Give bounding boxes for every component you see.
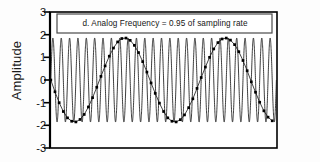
sample-marker bbox=[137, 51, 140, 54]
sample-marker bbox=[187, 106, 190, 109]
sample-marker bbox=[271, 119, 274, 122]
sample-marker bbox=[133, 44, 136, 47]
sample-marker bbox=[233, 43, 236, 46]
sample-marker bbox=[66, 117, 69, 120]
sample-marker bbox=[141, 60, 144, 63]
sample-marker bbox=[91, 96, 94, 99]
sample-marker bbox=[258, 101, 261, 104]
sample-marker bbox=[108, 55, 111, 58]
sample-marker bbox=[254, 91, 257, 94]
sample-marker bbox=[246, 69, 249, 72]
sample-marker bbox=[166, 117, 169, 120]
sample-marker bbox=[87, 106, 90, 109]
sample-marker bbox=[95, 86, 98, 89]
sample-marker bbox=[125, 37, 128, 40]
sample-marker bbox=[100, 75, 103, 78]
sample-marker bbox=[263, 109, 266, 112]
sample-marker bbox=[183, 114, 186, 117]
sample-marker bbox=[217, 41, 220, 44]
sample-marker bbox=[196, 87, 199, 90]
sample-marker bbox=[237, 50, 240, 53]
sample-marker bbox=[191, 97, 194, 100]
sample-marker bbox=[54, 90, 57, 93]
sample-marker bbox=[158, 102, 161, 105]
sample-marker bbox=[146, 71, 149, 74]
sample-marker bbox=[49, 79, 52, 82]
sample-marker bbox=[116, 41, 119, 44]
sample-marker bbox=[229, 39, 232, 42]
sample-marker bbox=[208, 56, 211, 59]
sample-marker bbox=[150, 82, 153, 85]
sample-marker bbox=[212, 48, 215, 51]
sample-marker bbox=[162, 110, 165, 113]
sample-marker bbox=[179, 118, 182, 121]
sample-marker bbox=[120, 37, 123, 40]
sample-marker bbox=[83, 113, 86, 116]
sample-marker bbox=[225, 37, 228, 40]
sample-marker bbox=[154, 92, 157, 95]
sample-marker bbox=[242, 59, 245, 62]
sample-marker bbox=[267, 116, 270, 119]
sample-marker bbox=[129, 39, 132, 42]
sample-marker bbox=[250, 80, 253, 83]
sample-marker bbox=[75, 121, 78, 124]
sample-marker bbox=[204, 66, 207, 69]
sample-marker bbox=[104, 65, 107, 68]
sample-marker bbox=[70, 120, 73, 123]
sample-marker bbox=[62, 110, 65, 113]
sample-marker bbox=[171, 120, 174, 123]
sample-marker bbox=[79, 118, 82, 121]
sample-marker bbox=[200, 76, 203, 79]
sample-marker bbox=[221, 38, 224, 41]
sample-marker bbox=[175, 121, 178, 124]
annotation-label: d. Analog Frequency = 0.95 of sampling r… bbox=[58, 15, 272, 32]
sample-marker bbox=[112, 47, 115, 50]
sample-marker bbox=[58, 101, 61, 104]
